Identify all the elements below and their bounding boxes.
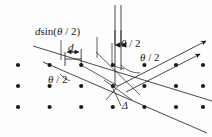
lattice-dot [201,84,205,88]
lattice-plane-line-lower [43,62,207,133]
lattice-dot [16,105,20,109]
wavefront-line-1 [96,52,140,95]
angle-label-incident: θ / 2 [121,38,140,49]
path-difference-label: dsin(θ / 2) [35,26,80,37]
construction-lines [81,43,140,106]
path-difference-tail: / 2) [62,25,80,37]
lattice-dot [201,105,205,109]
angle-label-plane: θ / 2 [48,74,67,85]
delta-label: Δ [122,101,128,111]
diagram-canvas [0,0,212,137]
spacing-label: d [68,42,74,53]
lattice-dot [142,63,146,67]
lattice-dot [79,84,83,88]
theta-denominator: / 2 [53,73,67,85]
theta-denominator: / 2 [145,51,159,63]
lattice-dot [79,105,83,109]
lattice-plane-lines [33,46,212,133]
lattice-dot [142,84,146,88]
bragg-diffraction-figure: dsin(θ / 2) d θ / 2 θ / 2 θ / 2 Δ [0,0,212,137]
lattice-dot [174,105,178,109]
lattice-dot [111,105,115,109]
theta-denominator: / 2 [126,37,140,49]
lattice-dot [16,84,20,88]
lattice-dot [201,63,205,67]
lattice-dot [48,105,52,109]
lattice-dot [16,63,20,67]
lattice-dot [174,84,178,88]
path-difference-sin: sin( [41,25,58,37]
angle-label-scattered: θ / 2 [140,52,159,63]
lower-plane-stub [106,86,118,100]
